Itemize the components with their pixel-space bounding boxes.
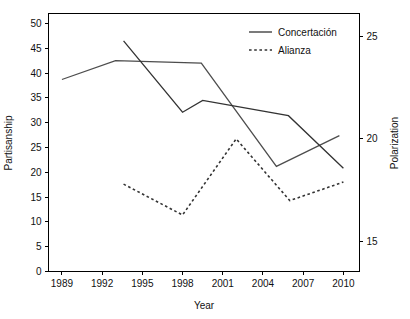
chart-legend: ConcertaciónAlianza [249,27,337,56]
y-tick-label-left: 15 [30,192,42,203]
y-axis-left-ticks [45,23,49,271]
y-axis-left-tick-labels: 05101520253035404550 [30,18,42,277]
y-tick-label-right: 20 [367,133,379,144]
y-tick-label-left: 45 [30,43,42,54]
x-axis-title: Year [194,300,215,311]
series-line-concertacin-0 [62,61,339,167]
y-tick-label-left: 10 [30,216,42,227]
plot-frame [49,14,360,272]
y-tick-label-left: 5 [36,241,42,252]
x-axis-tick-labels: 19891992199519982001200420072010 [51,278,355,289]
y-tick-label-left: 50 [30,18,42,29]
x-tick-label: 1989 [51,278,74,289]
x-tick-label: 2010 [332,278,355,289]
x-tick-label: 1992 [91,278,114,289]
y-axis-right-title: Polarization [389,117,400,169]
y-axis-right-ticks [360,36,364,242]
y-tick-label-left: 0 [36,266,42,277]
x-tick-label: 1998 [171,278,194,289]
x-tick-label: 2007 [292,278,315,289]
x-tick-label: 2001 [212,278,235,289]
x-axis-ticks [62,272,344,276]
y-tick-label-right: 15 [367,236,379,247]
x-tick-label: 2004 [252,278,275,289]
y-tick-label-left: 20 [30,167,42,178]
y-axis-right-tick-labels: 152025 [367,31,379,248]
x-tick-label: 1995 [131,278,154,289]
y-axis-left-title: Partisanship [3,115,14,170]
chart-container: 05101520253035404550 152025 198919921995… [0,0,410,319]
legend-label: Concertación [278,27,337,38]
data-series-group [62,41,344,215]
y-tick-label-left: 40 [30,68,42,79]
line-chart: 05101520253035404550 152025 198919921995… [0,0,410,319]
y-tick-label-left: 35 [30,92,42,103]
y-tick-label-left: 25 [30,142,42,153]
y-tick-label-right: 25 [367,31,379,42]
y-tick-label-left: 30 [30,117,42,128]
legend-label: Alianza [278,45,311,56]
